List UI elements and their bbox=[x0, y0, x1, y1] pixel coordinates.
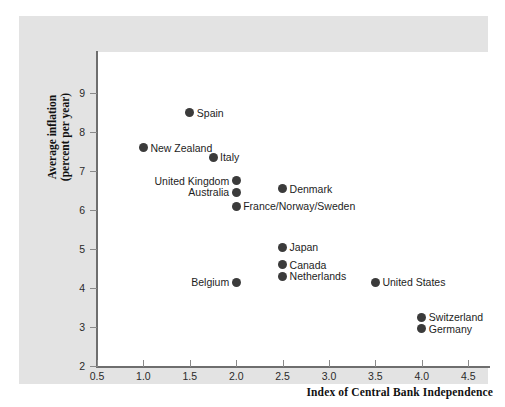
y-tick-mark bbox=[90, 249, 97, 250]
data-point bbox=[371, 278, 380, 287]
data-point bbox=[232, 278, 241, 287]
y-tick-mark bbox=[90, 327, 97, 328]
data-point-label: United States bbox=[382, 277, 445, 288]
data-point-label: Germany bbox=[429, 324, 472, 335]
x-tick-label: 2.0 bbox=[219, 371, 253, 382]
data-point-label: Switzerland bbox=[429, 312, 483, 323]
y-tick-mark bbox=[90, 210, 97, 211]
x-tick-mark bbox=[422, 360, 423, 367]
data-point bbox=[139, 143, 148, 152]
x-tick-label: 4.0 bbox=[405, 371, 439, 382]
data-point-label: Italy bbox=[220, 152, 239, 163]
y-tick-mark bbox=[90, 93, 97, 94]
x-axis-line bbox=[96, 366, 490, 368]
x-tick-label: 4.5 bbox=[451, 371, 485, 382]
x-tick-label: 1.5 bbox=[173, 371, 207, 382]
y-tick-mark bbox=[90, 132, 97, 133]
y-axis-title: Average inflation (percent per year) bbox=[46, 57, 72, 217]
x-axis-title: Index of Central Bank Independence bbox=[19, 386, 493, 398]
data-point bbox=[232, 176, 241, 185]
data-point-label: Australia bbox=[188, 187, 229, 198]
data-point-label: Canada bbox=[290, 260, 327, 271]
x-tick-mark bbox=[190, 360, 191, 367]
figure-background-panel: 23456789 0.51.01.52.02.53.03.54.04.5 Spa… bbox=[19, 16, 488, 384]
x-tick-mark bbox=[236, 360, 237, 367]
x-tick-mark bbox=[97, 360, 98, 367]
data-point-label: New Zealand bbox=[150, 143, 212, 154]
x-tick-mark bbox=[375, 360, 376, 367]
y-tick-label: 2 bbox=[69, 361, 85, 372]
x-tick-label: 0.5 bbox=[80, 371, 114, 382]
x-tick-label: 3.5 bbox=[358, 371, 392, 382]
data-point bbox=[209, 153, 218, 162]
data-point-label: Netherlands bbox=[290, 271, 347, 282]
x-tick-mark bbox=[283, 360, 284, 367]
y-axis-title-line-1: Average inflation bbox=[46, 57, 59, 217]
data-point-label: Spain bbox=[197, 108, 224, 119]
data-point bbox=[232, 188, 241, 197]
x-tick-label: 3.0 bbox=[312, 371, 346, 382]
data-point bbox=[417, 313, 426, 322]
x-tick-mark bbox=[329, 360, 330, 367]
y-tick-mark bbox=[90, 171, 97, 172]
y-tick-label: 4 bbox=[69, 283, 85, 294]
y-tick-label: 3 bbox=[69, 322, 85, 333]
data-point-label: Denmark bbox=[290, 184, 333, 195]
chart-figure: 23456789 0.51.01.52.02.53.03.54.04.5 Spa… bbox=[0, 0, 505, 407]
data-point-label: Japan bbox=[290, 242, 319, 253]
data-point bbox=[278, 272, 287, 281]
y-tick-label: 5 bbox=[69, 244, 85, 255]
x-tick-label: 2.5 bbox=[266, 371, 300, 382]
data-point-label: Belgium bbox=[191, 277, 229, 288]
data-point-label: France/Norway/Sweden bbox=[243, 201, 355, 212]
data-point-label: United Kingdom bbox=[154, 176, 229, 187]
x-tick-label: 1.0 bbox=[126, 371, 160, 382]
y-tick-mark bbox=[90, 288, 97, 289]
data-point bbox=[232, 202, 241, 211]
y-tick-mark bbox=[90, 366, 97, 367]
data-point bbox=[278, 243, 287, 252]
y-axis-title-line-2: (percent per year) bbox=[59, 57, 72, 217]
x-tick-mark bbox=[143, 360, 144, 367]
x-tick-mark bbox=[468, 360, 469, 367]
